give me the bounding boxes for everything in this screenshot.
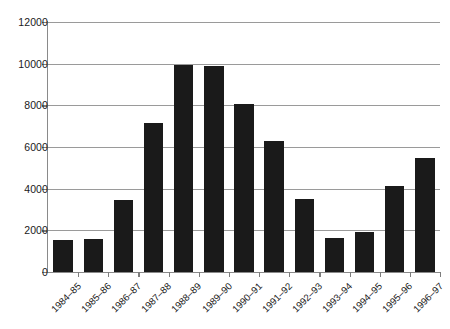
x-tick-label-text: 1984–85 (49, 281, 82, 314)
x-tick-label: 1996–97 (438, 255, 450, 288)
bar-chart: 020004000600080001000012000 1984–851985–… (0, 0, 450, 329)
x-tick-label-text: 1996–97 (411, 281, 444, 314)
x-axis-labels: 1984–851985–861986–871987–881988–891989–… (0, 0, 450, 329)
